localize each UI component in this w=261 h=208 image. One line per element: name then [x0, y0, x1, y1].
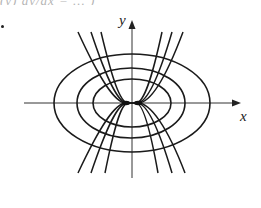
x-axis-arrow-icon [232, 100, 241, 107]
x-axis-label: x [240, 108, 247, 125]
y-axis-label: y [119, 12, 126, 29]
y-axis-arrow-icon [129, 20, 136, 29]
axes [24, 20, 241, 178]
orthogonal-trajectories-diagram [0, 0, 261, 208]
